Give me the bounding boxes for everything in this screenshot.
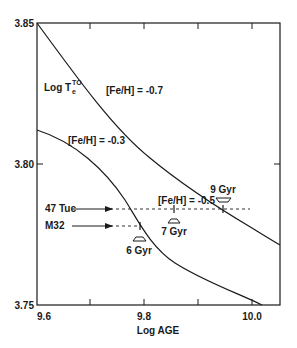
svg-text:Log T: Log T bbox=[44, 82, 71, 93]
y-tick-label-3-80: 3.80 bbox=[15, 159, 35, 170]
x-tick-label-10-0: 10.0 bbox=[242, 311, 262, 322]
x-tick-label-9-8: 9.8 bbox=[137, 311, 151, 322]
label-fe-h-minus-0-3: [Fe/H] = -0.3 bbox=[68, 135, 125, 146]
plot-frame bbox=[37, 23, 280, 305]
y-tick-label-3-75: 3.75 bbox=[15, 300, 35, 311]
pointer-icon-7-gyr bbox=[168, 219, 180, 223]
label-9-gyr: 9 Gyr bbox=[210, 184, 236, 195]
x-ticks-bottom bbox=[90, 299, 252, 305]
label-m32: M32 bbox=[45, 220, 65, 231]
x-tick-label-9-6: 9.6 bbox=[37, 311, 51, 322]
label-6-gyr: 6 Gyr bbox=[126, 245, 152, 256]
label-47-tuc: 47 Tuc bbox=[45, 203, 76, 214]
label-fe-h-minus-0-5: [Fe/H] = -0.5 bbox=[158, 195, 215, 206]
pointer-icon-6-gyr bbox=[133, 237, 146, 241]
curve-fe-h-minus-0-3 bbox=[37, 130, 262, 305]
label-7-gyr: 7 Gyr bbox=[161, 226, 187, 237]
x-ticks-top bbox=[90, 23, 252, 29]
x-axis-title: Log AGE bbox=[137, 325, 180, 336]
chart-canvas: 3.85 3.80 3.75 9.6 9.8 10.0 Log AGE Log … bbox=[0, 0, 297, 348]
svg-text:e: e bbox=[72, 88, 76, 95]
label-fe-h-minus-0-7: [Fe/H] = -0.7 bbox=[106, 85, 163, 96]
y-axis-title: Log T e TO bbox=[44, 79, 82, 95]
pointer-icon-9-gyr bbox=[216, 198, 231, 202]
y-tick-label-3-85: 3.85 bbox=[15, 18, 35, 29]
